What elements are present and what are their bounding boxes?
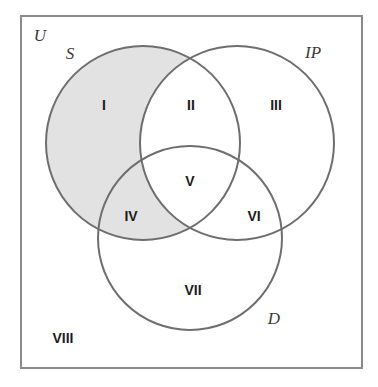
venn-diagram-canvas: U S IP D I II III IV V VI VII VIII	[0, 0, 378, 387]
region-label-viii: VIII	[52, 330, 73, 346]
region-label-i: I	[102, 97, 106, 113]
region-label-ii: II	[187, 97, 195, 113]
set-label-ip: IP	[304, 43, 321, 62]
region-label-iii: III	[270, 97, 282, 113]
set-label-d: D	[267, 309, 281, 328]
region-label-vii: VII	[184, 282, 201, 298]
region-label-vi: VI	[247, 208, 260, 224]
universe-label: U	[34, 26, 48, 45]
set-label-s: S	[66, 44, 75, 63]
venn-diagram-figure: U S IP D I II III IV V VI VII VIII	[0, 0, 378, 387]
region-label-iv: IV	[124, 208, 138, 224]
region-label-v: V	[185, 173, 195, 189]
